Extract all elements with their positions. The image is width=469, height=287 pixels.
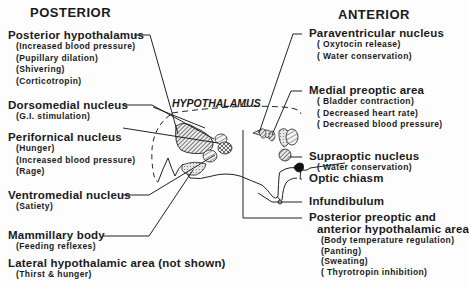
structure-name: Lateral hypothalamic area (not shown) xyxy=(8,257,226,269)
label-posterior-hypothalamus: Posterior hypothalamus (Increased blood … xyxy=(8,29,144,87)
hypothalamus-label: HYPOTHALAMUS xyxy=(172,97,261,109)
function-text: ( Decreased heart rate) xyxy=(317,108,443,120)
infundibulum-stalk xyxy=(277,196,280,200)
posterior-header: POSTERIOR xyxy=(30,5,111,20)
function-text: ( Thyrotropin inhibition) xyxy=(321,267,469,278)
function-text: ( Decreased blood pressure) xyxy=(317,119,443,131)
structure-name: Dorsomedial nucleus xyxy=(8,99,128,111)
leader-paraventricular xyxy=(259,34,302,133)
function-text: (Hunger) xyxy=(16,143,136,155)
function-text: (Increased blood pressure) xyxy=(16,155,136,167)
structure-name: Mammillary body xyxy=(8,229,105,241)
structure-name: Medial preoptic area xyxy=(309,84,443,96)
infundibulum-stem xyxy=(282,178,297,200)
label-lateral-hypothalamic-area: Lateral hypothalamic area (not shown) (T… xyxy=(8,257,226,281)
label-supraoptic-nucleus: Supraoptic nucleus ( Water conservation) xyxy=(309,150,419,174)
label-paraventricular-nucleus: Paraventricular nucleus ( Oxytocin relea… xyxy=(309,27,444,62)
structure-name: Ventromedial nucleus xyxy=(8,189,131,201)
posterior-dashed-curve xyxy=(152,115,170,182)
structure-name: Supraoptic nucleus xyxy=(309,150,419,162)
label-infundibulum: Infundibulum xyxy=(309,195,384,207)
anterior-header: ANTERIOR xyxy=(338,7,410,22)
label-mammillary-body: Mammillary body (Feeding reflexes) xyxy=(8,229,105,253)
function-text: (Increased blood pressure) xyxy=(16,41,144,53)
paraventricular-nucleus-shape xyxy=(258,129,266,139)
structure-name: Posterior preoptic and xyxy=(309,211,469,223)
structure-name: Optic chiasm xyxy=(309,172,384,184)
supraoptic-nucleus-shape xyxy=(279,149,291,161)
structure-name: Posterior hypothalamus xyxy=(8,29,144,41)
function-text: (Corticotropin) xyxy=(16,76,144,88)
optic-chiasm-shape xyxy=(294,163,304,172)
ventromedial-nucleus-shape xyxy=(203,150,217,162)
function-text: ( Bladder contraction) xyxy=(317,96,443,108)
structure-name: Perifornical nucleus xyxy=(8,131,136,143)
function-text: (Panting) xyxy=(321,246,469,257)
function-text: (Pupillary dilation) xyxy=(16,53,144,65)
function-text: (Satiety) xyxy=(16,201,131,213)
label-optic-chiasm: Optic chiasm xyxy=(309,172,384,184)
anterior-hatch-shape xyxy=(286,129,298,145)
label-dorsomedial-nucleus: Dorsomedial nucleus (G.I. stimulation) xyxy=(8,99,128,123)
function-text: (Body temperature regulation) xyxy=(321,235,469,246)
label-medial-preoptic-area: Medial preoptic area ( Bladder contracti… xyxy=(309,84,443,131)
function-text: (G.I. stimulation) xyxy=(16,111,128,123)
function-text: (Rage) xyxy=(16,166,136,178)
function-text: ( Water conservation) xyxy=(317,51,444,63)
structure-name-line2: anterior hypothalamic area xyxy=(309,223,469,235)
function-text: (Shivering) xyxy=(16,64,144,76)
label-posterior-preoptic-anterior-hypothalamic: Posterior preoptic and anterior hypothal… xyxy=(309,211,469,277)
perifornical-nucleus-shape xyxy=(218,142,232,154)
structure-name: Paraventricular nucleus xyxy=(309,27,444,39)
label-perifornical-nucleus: Perifornical nucleus (Hunger) (Increased… xyxy=(8,131,136,178)
function-text: ( Oxytocin release) xyxy=(317,39,444,51)
paraventricular-hatch-shape xyxy=(269,131,275,141)
function-text: (Thirst & hunger) xyxy=(16,269,226,281)
label-ventromedial-nucleus: Ventromedial nucleus (Satiety) xyxy=(8,189,131,213)
leader-medial-preoptic xyxy=(272,91,302,135)
function-text: (Sweating) xyxy=(321,256,469,267)
function-text: (Feeding reflexes) xyxy=(16,241,105,253)
structure-name: Infundibulum xyxy=(309,195,384,207)
